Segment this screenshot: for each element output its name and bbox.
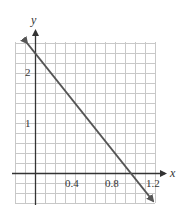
y-axis-label: y bbox=[30, 13, 37, 27]
y-tick-1: 1 bbox=[25, 117, 31, 129]
x-tick-0.4: 0.4 bbox=[65, 177, 79, 189]
x-tick-1.2: 1.2 bbox=[146, 177, 160, 189]
y-tick-2: 2 bbox=[25, 66, 31, 78]
line-graph: y x 2 1 0.4 0.8 1.2 bbox=[0, 0, 185, 217]
x-axis-label: x bbox=[169, 166, 176, 180]
x-tick-0.8: 0.8 bbox=[105, 177, 119, 189]
